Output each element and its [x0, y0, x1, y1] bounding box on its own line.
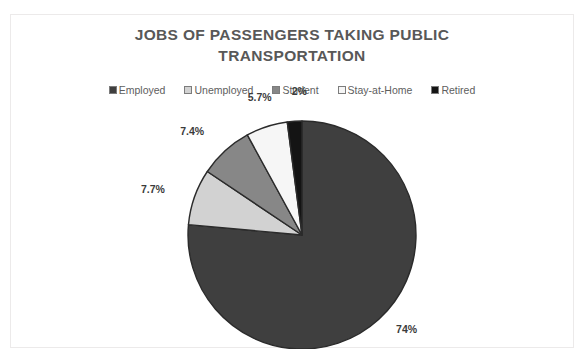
legend-swatch-retired [431, 86, 439, 94]
legend-label-retired: Retired [441, 84, 475, 96]
chart-title-line-2: TRANSPORTATION [11, 45, 573, 66]
legend-label-unemployed: Unemployed [194, 84, 253, 96]
pie-slices [188, 121, 416, 349]
legend-item-employed[interactable]: Employed [109, 84, 166, 96]
chart-title: JOBS OF PASSENGERS TAKING PUBLIC TRANSPO… [11, 24, 573, 66]
data-label-employed: 74% [396, 323, 418, 335]
legend-item-student[interactable]: Student [272, 84, 318, 96]
legend-item-retired[interactable]: Retired [431, 84, 475, 96]
legend-swatch-unemployed [184, 86, 192, 94]
pie-data-labels: 74% 7.7% 7.4% 5.7% 2% [141, 85, 418, 335]
pie-slice-unemployed[interactable] [188, 172, 302, 235]
legend-item-unemployed[interactable]: Unemployed [184, 84, 253, 96]
data-label-unemployed: 7.7% [141, 183, 166, 195]
chart-legend: Employed Unemployed Student Stay-at-Home… [11, 84, 573, 96]
legend-swatch-stay-at-home [338, 86, 346, 94]
legend-swatch-student [272, 86, 280, 94]
chart-title-line-1: JOBS OF PASSENGERS TAKING PUBLIC [11, 24, 573, 45]
legend-item-stay-at-home[interactable]: Stay-at-Home [338, 84, 413, 96]
pie-slice-stay-at-home[interactable] [247, 122, 302, 235]
pie-slice-employed[interactable] [188, 121, 416, 349]
legend-swatch-employed [109, 86, 117, 94]
legend-label-student: Student [282, 84, 318, 96]
chart-frame: JOBS OF PASSENGERS TAKING PUBLIC TRANSPO… [10, 14, 574, 348]
legend-label-stay-at-home: Stay-at-Home [348, 84, 413, 96]
pie-slice-student[interactable] [207, 135, 302, 235]
data-label-student: 7.4% [180, 125, 205, 137]
pie-slice-retired[interactable] [287, 121, 302, 235]
legend-label-employed: Employed [119, 84, 166, 96]
